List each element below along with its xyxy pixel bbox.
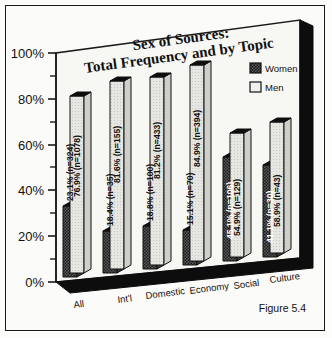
y-tick-label: 100% <box>11 46 45 61</box>
figure-container: 100% 80% 60% 40% 20% 0% <box>0 0 332 338</box>
x-label-intl: Int'l <box>117 292 133 305</box>
bar-value-label: 76.9% (n=1078) <box>72 135 82 197</box>
x-label-economy: Economy <box>189 280 230 296</box>
y-tick-label: 60% <box>18 138 44 153</box>
bar-chart: 100% 80% 60% 40% 20% 0% <box>0 0 332 338</box>
bar-value-label: 81.2% (n=433) <box>152 122 162 179</box>
y-axis-tick-20: 20% <box>18 229 56 244</box>
y-tick-label: 80% <box>18 92 44 107</box>
y-axis-tick-60: 60% <box>18 138 56 153</box>
bar-value-label: 81.6% (n=155) <box>112 126 122 183</box>
y-axis-tick-100: 100% <box>11 46 56 61</box>
y-tick-label: 40% <box>18 183 44 198</box>
y-axis-tick-40: 40% <box>18 183 56 198</box>
bar-value-label: 84.9% (n=394) <box>192 110 202 167</box>
legend-item-men[interactable]: Men <box>250 82 283 93</box>
bar-value-label: 58.9% (n=43) <box>272 175 282 227</box>
y-axis: 100% 80% 60% 40% 20% 0% <box>11 46 56 290</box>
y-tick-label: 20% <box>18 229 44 244</box>
y-tick-label: 0% <box>25 275 44 290</box>
x-label-all: All <box>73 298 85 310</box>
y-axis-tick-80: 80% <box>18 92 56 107</box>
figure-caption: Figure 5.4 <box>259 302 306 314</box>
bar-value-label: 15.1% (n=70) <box>185 173 195 225</box>
x-label-social: Social <box>233 277 260 291</box>
bar-value-label: 54.9% (n=129) <box>232 179 242 236</box>
legend-label-women: Women <box>265 63 298 74</box>
x-label-domestic: Domestic <box>145 285 186 301</box>
legend-label-men: Men <box>265 82 283 93</box>
y-axis-tick-0: 0% <box>25 275 56 290</box>
legend-item-women[interactable]: Women <box>250 63 298 74</box>
y-axis-minor-ticks <box>50 76 56 259</box>
plot-right-wall <box>300 20 313 268</box>
